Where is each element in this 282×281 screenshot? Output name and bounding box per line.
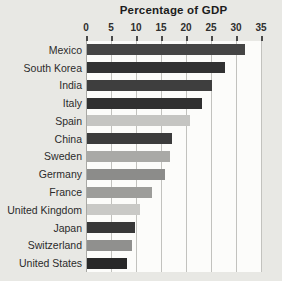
bar-row: China (0, 130, 282, 148)
bar-row: Germany (0, 165, 282, 183)
bar-track (86, 130, 282, 148)
bar-row: France (0, 183, 282, 201)
x-tick-label: 20 (180, 22, 191, 33)
bar-track (86, 148, 282, 166)
bar-row: Japan (0, 219, 282, 237)
bar-track (86, 201, 282, 219)
bar (87, 151, 170, 162)
bar-row: Mexico (0, 41, 282, 59)
category-label: Japan (0, 222, 86, 234)
bar (87, 204, 140, 215)
bar (87, 44, 245, 55)
category-label: Mexico (0, 44, 86, 56)
category-label: China (0, 133, 86, 145)
category-label: Spain (0, 115, 86, 127)
category-label: Germany (0, 168, 86, 180)
bar-track (86, 236, 282, 254)
bar-row: Switzerland (0, 236, 282, 254)
x-tick-label: 5 (108, 22, 114, 33)
bar-track (86, 219, 282, 237)
x-tick-label: 10 (130, 22, 141, 33)
category-label: Italy (0, 97, 86, 109)
bar-row: United States (0, 254, 282, 272)
x-axis: 05101520253035 (86, 22, 261, 35)
bar-chart-figure: Percentage of GDP 05101520253035 MexicoS… (0, 0, 282, 281)
category-label: United States (0, 257, 86, 269)
bar-track (86, 41, 282, 59)
x-tick-label: 0 (83, 22, 89, 33)
bar-track (86, 77, 282, 95)
bar (87, 62, 225, 73)
bar-track (86, 59, 282, 77)
category-label: India (0, 79, 86, 91)
bar-track (86, 165, 282, 183)
bar-track (86, 94, 282, 112)
bar-rows: MexicoSouth KoreaIndiaItalySpainChinaSwe… (0, 41, 282, 272)
bar (87, 222, 135, 233)
bar (87, 187, 152, 198)
category-label: South Korea (0, 62, 86, 74)
x-tick-label: 35 (255, 22, 266, 33)
chart-title: Percentage of GDP (86, 4, 261, 16)
bar (87, 98, 202, 109)
bar-track (86, 112, 282, 130)
bar-row: Italy (0, 94, 282, 112)
bar-row: South Korea (0, 59, 282, 77)
bar-track (86, 254, 282, 272)
x-tick-label: 30 (230, 22, 241, 33)
category-label: France (0, 186, 86, 198)
category-label: Switzerland (0, 239, 86, 251)
bar (87, 133, 172, 144)
bar-row: Spain (0, 112, 282, 130)
bar-track (86, 183, 282, 201)
category-label: United Kingdom (0, 204, 86, 216)
bar-row: Sweden (0, 148, 282, 166)
bar (87, 115, 190, 126)
bar (87, 240, 132, 251)
x-tick-label: 15 (155, 22, 166, 33)
bar (87, 258, 127, 269)
bar (87, 80, 212, 91)
bar-row: United Kingdom (0, 201, 282, 219)
bar (87, 169, 165, 180)
category-label: Sweden (0, 150, 86, 162)
bar-row: India (0, 77, 282, 95)
x-tick-label: 25 (205, 22, 216, 33)
